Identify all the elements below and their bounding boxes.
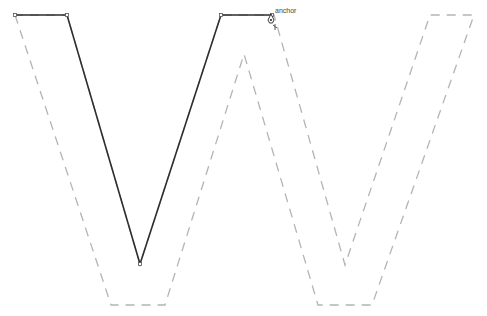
path-vertex-handle[interactable] (139, 263, 142, 266)
drawn-stroke-path (15, 15, 272, 264)
pen-cursor-icon (268, 14, 277, 30)
anchor-label: anchor (275, 7, 297, 14)
path-vertex-handle[interactable] (14, 14, 17, 17)
path-vertex-handle[interactable] (66, 14, 69, 17)
drawing-canvas[interactable]: anchor (0, 0, 487, 316)
path-vertex-handle[interactable] (220, 14, 223, 17)
letter-w-guide-outline (15, 15, 474, 305)
